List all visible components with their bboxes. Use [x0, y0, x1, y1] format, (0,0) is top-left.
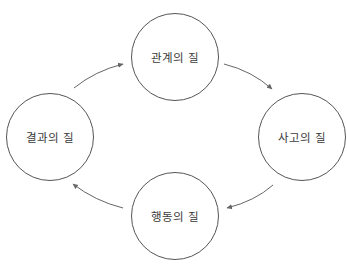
- node-label: 결과의 질: [26, 129, 75, 145]
- arrow-right-to-bottom: [227, 185, 273, 208]
- arrow-top-to-right: [224, 64, 272, 89]
- node-result-quality: 결과의 질: [6, 93, 94, 181]
- node-label: 관계의 질: [151, 49, 200, 65]
- cycle-diagram: 관계의 질 사고의 질 행동의 질 결과의 질: [0, 0, 347, 274]
- node-thinking-quality: 사고의 질: [258, 93, 346, 181]
- node-label: 사고의 질: [278, 129, 327, 145]
- node-relationship-quality: 관계의 질: [131, 13, 219, 101]
- node-label: 행동의 질: [151, 208, 200, 224]
- arrow-bottom-to-left: [73, 184, 123, 208]
- node-action-quality: 행동의 질: [131, 172, 219, 260]
- arrow-left-to-top: [74, 64, 123, 88]
